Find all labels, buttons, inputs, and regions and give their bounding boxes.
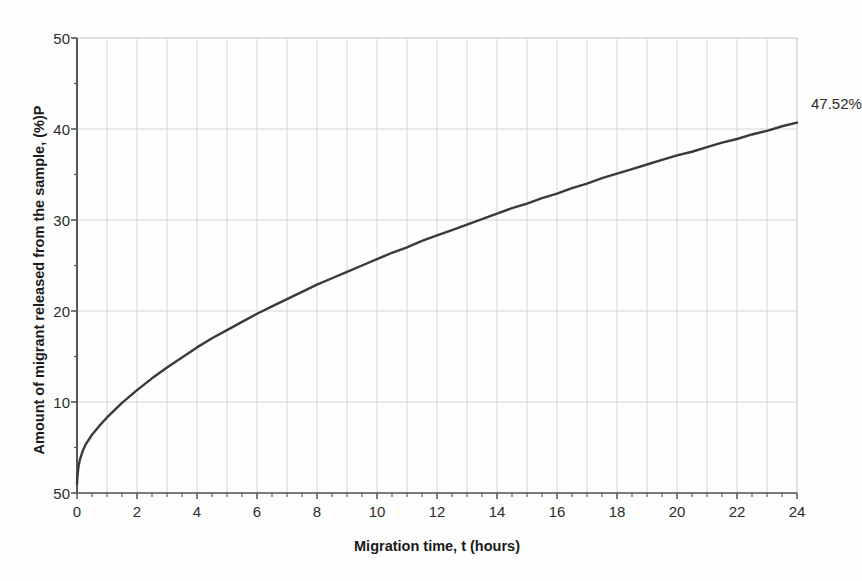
- x-axis-tick-label: 22: [717, 503, 757, 520]
- y-axis-tick-label: 50: [28, 485, 70, 502]
- x-axis-tick-label: 24: [777, 503, 817, 520]
- y-axis-tick-label: 10: [28, 394, 70, 411]
- x-axis-tick-label: 4: [177, 503, 217, 520]
- x-axis-tick-label: 16: [537, 503, 577, 520]
- x-axis-tick-label: 6: [237, 503, 277, 520]
- x-axis-tick-label: 20: [657, 503, 697, 520]
- x-axis-tick-label: 14: [477, 503, 517, 520]
- x-axis-title: Migration time, t (hours): [77, 538, 797, 554]
- y-axis-tick-labels: 501020304050: [26, 0, 70, 581]
- y-axis-tick-label: 30: [28, 212, 70, 229]
- x-axis-tick-label: 0: [57, 503, 97, 520]
- x-axis-tick-label: 8: [297, 503, 337, 520]
- x-axis-tick-label: 10: [357, 503, 397, 520]
- chart-annotation-final-value: 47.52%: [811, 95, 862, 112]
- y-axis-tick-label: 20: [28, 303, 70, 320]
- x-axis-tick-label: 12: [417, 503, 457, 520]
- y-axis-tick-label: 40: [28, 121, 70, 138]
- x-axis-tick-label: 2: [117, 503, 157, 520]
- x-axis-tick-label: 18: [597, 503, 637, 520]
- y-axis-tick-label: 50: [28, 30, 70, 47]
